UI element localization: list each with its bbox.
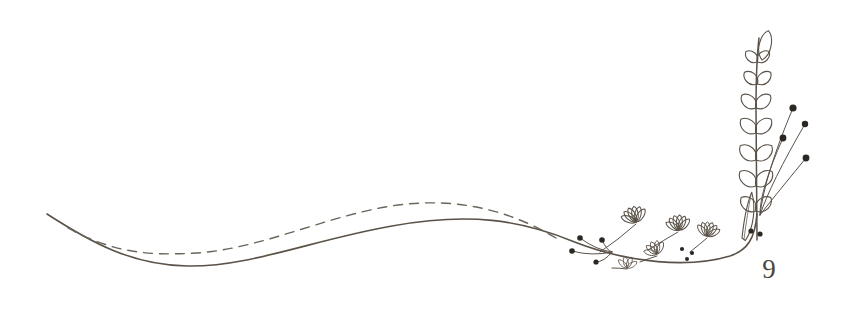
cluster-berry-2	[569, 248, 575, 254]
flower-stem-1	[600, 224, 636, 252]
speckle-dot-3	[685, 257, 689, 261]
fan-flower-1	[617, 202, 650, 229]
cluster-berry-3	[593, 259, 598, 264]
berry-sprigs-group	[569, 104, 809, 264]
speckle-dot-1	[680, 247, 684, 251]
speckle-dot-2	[690, 251, 694, 255]
stem-tip-leaf	[756, 29, 774, 61]
speckle-dot-4	[748, 228, 753, 233]
berry-dot	[789, 104, 796, 111]
sprig-stem	[760, 158, 806, 215]
sprig-stem	[760, 108, 793, 215]
flourish-lines-group	[47, 203, 757, 266]
cluster-berry-1	[577, 235, 583, 241]
left-berry-cluster	[569, 235, 612, 264]
leaf-pair-2	[741, 68, 775, 88]
leaf-right	[752, 115, 776, 138]
berry-dot	[802, 121, 808, 127]
page-number: 9	[752, 252, 786, 286]
fan-flower-2	[663, 213, 693, 234]
leaf-left	[741, 68, 761, 88]
botanical-divider-illustration	[0, 0, 846, 323]
dashed-flourish-line	[68, 203, 556, 254]
speckle-dots-group	[680, 228, 763, 261]
ornament-page: 9	[0, 0, 846, 323]
berry-dot	[803, 155, 810, 162]
berry-dot	[780, 135, 787, 142]
speckle-dot-5	[757, 231, 762, 236]
cluster-berry-4	[599, 237, 605, 243]
fan-flower-3	[694, 219, 723, 241]
flower-stem-3	[690, 238, 707, 252]
